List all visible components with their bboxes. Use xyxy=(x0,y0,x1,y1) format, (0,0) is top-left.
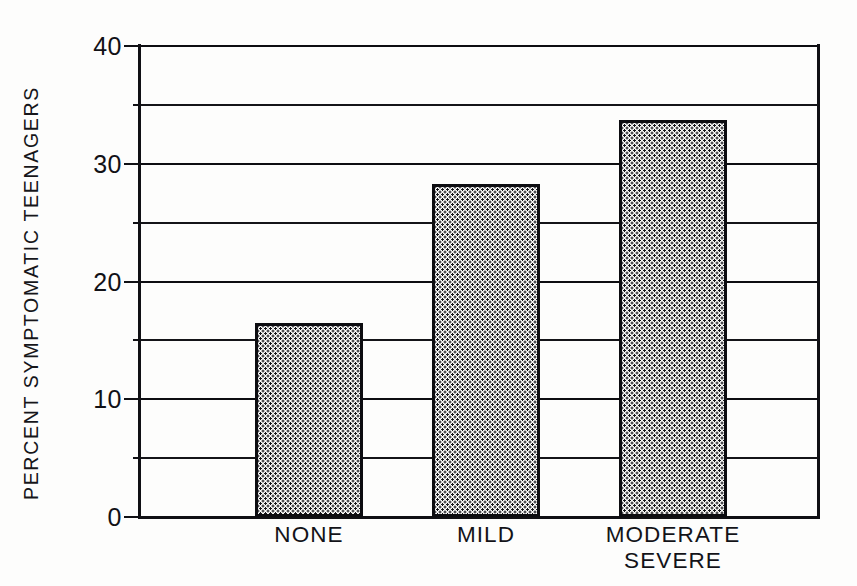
y-axis-title: PERCENT SYMPTOMATIC TEENAGERS xyxy=(0,0,62,586)
bar xyxy=(255,323,363,517)
plot-area xyxy=(140,46,818,517)
bar-chart-figure: PERCENT SYMPTOMATIC TEENAGERS 010203040 … xyxy=(0,0,857,586)
y-tick-major xyxy=(124,45,141,47)
y-tick-major xyxy=(124,281,141,283)
y-tick-major xyxy=(124,163,141,165)
y-tick-minor xyxy=(133,457,141,459)
bar xyxy=(619,120,727,517)
x-axis-category-labels: NONEMILDMODERATE SEVERE xyxy=(140,522,818,584)
y-tick-minor xyxy=(133,222,141,224)
y-tick-minor xyxy=(133,104,141,106)
y-tick-label: 30 xyxy=(93,151,122,176)
y-tick-label: 20 xyxy=(93,269,122,294)
bar xyxy=(432,184,540,517)
y-tick-label: 10 xyxy=(93,387,122,412)
y-tick-major xyxy=(124,398,141,400)
gridline-minor xyxy=(140,104,818,106)
x-axis-label: MODERATE SEVERE xyxy=(606,522,741,574)
y-tick-minor xyxy=(133,339,141,341)
x-axis-label: MILD xyxy=(457,522,515,548)
y-tick-major xyxy=(124,516,141,518)
y-axis-tick-labels: 010203040 xyxy=(60,46,122,517)
y-tick-label: 40 xyxy=(93,34,122,59)
gridline-major xyxy=(140,45,818,47)
y-tick-label: 0 xyxy=(108,505,122,530)
x-axis-label: NONE xyxy=(274,522,343,548)
